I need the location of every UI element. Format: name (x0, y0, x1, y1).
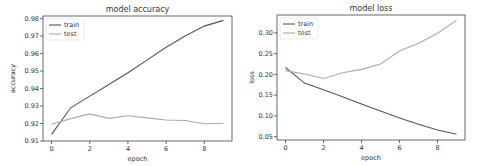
x-axis-label: epoch (361, 154, 381, 162)
y-tick-label: 0.92 (25, 120, 39, 128)
chart-title: model accuracy (106, 5, 170, 14)
y-tick-label: 0.96 (25, 50, 39, 58)
x-tick-label: 6 (397, 144, 401, 152)
y-tick-label: 0.30 (259, 29, 273, 37)
y-tick-label: 0.94 (25, 85, 39, 93)
y-axis-label: loss (248, 71, 256, 84)
legend-label-test: test (298, 29, 311, 37)
legend: traintest (46, 19, 84, 40)
series-train-line (286, 68, 457, 135)
x-tick-label: 0 (283, 144, 287, 152)
x-tick-label: 8 (202, 145, 206, 153)
loss-chart: model loss0.050.100.150.200.250.3002468e… (248, 4, 465, 162)
x-tick-label: 0 (50, 145, 54, 153)
legend-label-test: test (64, 30, 77, 38)
y-tick-label: 0.20 (259, 71, 273, 79)
x-tick-label: 2 (321, 144, 325, 152)
legend: traintest (280, 18, 318, 39)
x-tick-label: 6 (164, 145, 168, 153)
y-tick-label: 0.05 (259, 133, 273, 141)
y-tick-label: 0.95 (25, 67, 39, 75)
x-axis-label: epoch (128, 155, 148, 163)
y-tick-label: 0.10 (259, 112, 273, 120)
y-tick-label: 0.91 (25, 137, 39, 145)
x-tick-label: 4 (126, 145, 130, 153)
y-tick-label: 0.15 (259, 91, 273, 99)
x-tick-label: 4 (359, 144, 363, 152)
x-tick-label: 2 (88, 145, 92, 153)
legend-label-train: train (298, 20, 313, 28)
y-axis-label: accuracy (9, 64, 17, 93)
chart-title: model loss (350, 4, 393, 13)
accuracy-chart: model accuracy0.910.920.930.940.950.960.… (9, 5, 232, 163)
figure: model accuracy0.910.920.930.940.950.960.… (0, 0, 484, 166)
y-tick-label: 0.97 (25, 32, 39, 40)
x-tick-label: 8 (435, 144, 439, 152)
series-test-line (52, 114, 224, 124)
y-tick-label: 0.98 (25, 15, 39, 23)
y-tick-label: 0.93 (25, 102, 39, 110)
legend-label-train: train (64, 21, 79, 29)
y-tick-label: 0.25 (259, 50, 273, 58)
